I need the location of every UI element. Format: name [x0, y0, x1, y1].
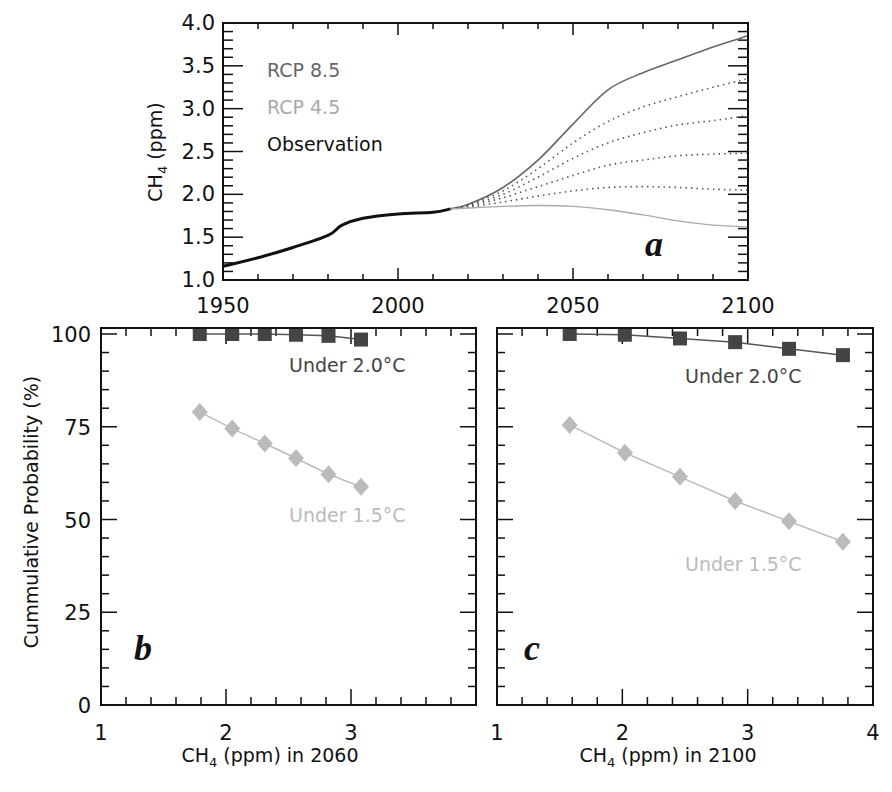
diamond-marker	[672, 468, 688, 486]
panel-c-lines	[562, 327, 851, 551]
legend-rcp45: RCP 4.5	[267, 96, 340, 118]
series-line	[570, 334, 843, 355]
y-tick-label: 1.5	[182, 225, 215, 249]
y-tick-label: 50	[64, 509, 91, 533]
y-tick-label: 0	[78, 694, 91, 718]
y-tick-label: 4.0	[182, 11, 215, 35]
x-tick-label: 4	[866, 721, 879, 745]
legend-observation: Observation	[267, 133, 383, 155]
label-under-15-b: Under 1.5°C	[289, 504, 406, 526]
panel-a-y-tick-labels: 1.01.52.02.53.03.54.0	[182, 11, 215, 292]
diamond-marker	[321, 465, 337, 483]
panel-c-x-tick-labels: 1234	[490, 721, 879, 745]
diamond-marker	[835, 533, 851, 551]
x-tick-label: 2100	[721, 294, 774, 318]
panel-c-chart: 1234 CH4 (ppm) in 2100 Under 2.0°C Under…	[490, 327, 879, 770]
x-tick-label: 1	[490, 721, 503, 745]
diamond-marker	[192, 403, 208, 421]
square-marker	[354, 333, 368, 347]
x-tick-label: 2	[219, 721, 232, 745]
y-tick-label: 75	[64, 416, 91, 440]
panel-b-chart: 123 0255075100 Cummulative Probability (…	[20, 323, 476, 770]
diamond-marker	[224, 420, 240, 438]
square-marker	[322, 329, 336, 343]
series-intermediate-4	[451, 187, 749, 209]
y-tick-label: 100	[51, 323, 91, 347]
diamond-marker	[257, 434, 273, 452]
x-tick-label: 2	[616, 721, 629, 745]
square-marker	[563, 327, 577, 341]
series-intermediate-3	[451, 153, 749, 209]
square-marker	[728, 335, 742, 349]
series-line	[200, 412, 361, 487]
y-tick-label: 1.0	[182, 268, 215, 292]
panel-b-y-tick-labels: 0255075100	[51, 323, 91, 718]
panel-a-chart: 1950200020502100 1.01.52.02.53.03.54.0 C…	[144, 11, 775, 318]
panel-a-y-axis-title: CH4 (ppm)	[144, 102, 170, 201]
square-marker	[836, 348, 850, 362]
square-marker	[193, 327, 207, 341]
x-tick-label: 1	[94, 721, 107, 745]
square-marker	[225, 327, 239, 341]
diamond-marker	[288, 449, 304, 467]
panel-b-y-axis-title: Cummulative Probability (%)	[20, 376, 42, 648]
square-marker	[782, 342, 796, 356]
legend-rcp85: RCP 8.5	[267, 59, 340, 81]
series-line	[200, 334, 361, 340]
panel-b-x-axis-title: CH4 (ppm) in 2060	[181, 744, 358, 770]
y-tick-label: 3.5	[182, 54, 215, 78]
series-rcp-8-5	[451, 36, 749, 209]
series-observation	[223, 209, 451, 266]
panel-b-lines	[192, 327, 369, 496]
y-tick-label: 2.0	[182, 182, 215, 206]
x-tick-label: 2000	[371, 294, 424, 318]
square-marker	[673, 331, 687, 345]
x-tick-label: 3	[344, 721, 357, 745]
square-marker	[289, 328, 303, 342]
panel-a-letter: a	[645, 224, 663, 264]
series-line	[570, 425, 843, 542]
label-under-2-c: Under 2.0°C	[685, 365, 802, 387]
diamond-marker	[562, 416, 578, 434]
figure: 1950200020502100 1.01.52.02.53.03.54.0 C…	[0, 0, 892, 792]
y-tick-label: 2.5	[182, 140, 215, 164]
panel-c-x-axis-title: CH4 (ppm) in 2100	[579, 744, 756, 770]
square-marker	[618, 328, 632, 342]
series-intermediate-2	[451, 116, 749, 209]
y-tick-label: 3.0	[182, 97, 215, 121]
panel-b-letter: b	[134, 628, 152, 668]
x-tick-label: 2050	[546, 294, 599, 318]
x-tick-label: 1950	[196, 294, 249, 318]
diamond-marker	[617, 444, 633, 462]
label-under-2-b: Under 2.0°C	[289, 354, 406, 376]
series-rcp-4-5	[451, 205, 749, 226]
x-tick-label: 3	[741, 721, 754, 745]
diamond-marker	[727, 492, 743, 510]
panel-b-x-tick-labels: 123	[94, 721, 357, 745]
diamond-marker	[781, 512, 797, 530]
label-under-15-c: Under 1.5°C	[685, 553, 802, 575]
diamond-marker	[353, 478, 369, 496]
panel-a-x-tick-labels: 1950200020502100	[196, 294, 774, 318]
panel-c-letter: c	[524, 628, 540, 668]
square-marker	[258, 327, 272, 341]
y-tick-label: 25	[64, 601, 91, 625]
